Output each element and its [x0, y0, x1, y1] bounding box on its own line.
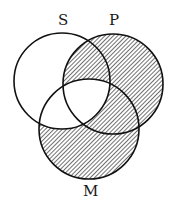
label-p: P	[109, 11, 119, 29]
venn-diagram: S P M	[0, 0, 174, 202]
label-m: M	[83, 182, 98, 200]
label-s: S	[58, 11, 68, 29]
